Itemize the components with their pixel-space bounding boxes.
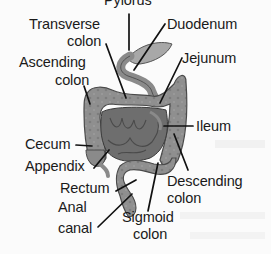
label-transverse-colon-line1: Transverse <box>29 16 100 32</box>
label-appendix: Appendix <box>25 158 86 174</box>
label-rectum: Rectum <box>60 180 109 196</box>
leader-cecum <box>76 145 92 146</box>
intestine-diagram: Pylorus Transverse colon Duodenum Ascend… <box>0 0 271 254</box>
label-jejunum: Jejunum <box>182 50 236 66</box>
label-ascending-colon-line1: Ascending <box>19 54 86 70</box>
label-duodenum: Duodenum <box>167 16 237 32</box>
label-ileum: Ileum <box>196 118 231 134</box>
label-transverse-colon-line2: colon <box>67 33 101 49</box>
appendix-shape <box>100 164 108 176</box>
label-anal-canal-line1: Anal <box>58 199 87 215</box>
label-cecum: Cecum <box>25 136 70 152</box>
label-descending-colon-line2: colon <box>167 190 201 206</box>
label-descending-colon-line1: Descending <box>167 173 243 189</box>
label-pylorus: Pylorus <box>104 0 152 8</box>
label-sigmoid-colon-line1: Sigmoid <box>122 209 174 225</box>
label-ascending-colon-line2: colon <box>55 72 89 88</box>
label-sigmoid-colon-line2: colon <box>133 226 167 242</box>
label-anal-canal-line2: canal <box>58 220 92 236</box>
